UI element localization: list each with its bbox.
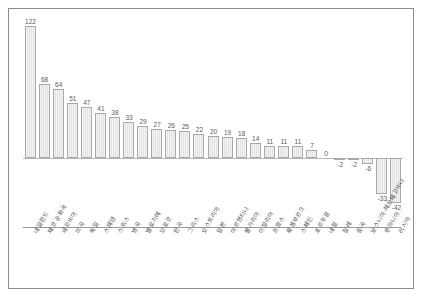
bar[interactable] [222,137,233,158]
bar-item[interactable]: 11 [292,17,303,212]
bar-item[interactable]: -2 [334,17,345,212]
category-label: 러시아 [398,215,413,234]
bar-item[interactable]: 18 [236,17,247,212]
bar-item[interactable]: 27 [151,17,162,212]
bar[interactable] [39,84,50,158]
bar-item[interactable]: 0 [320,17,331,212]
bar-item[interactable]: 26 [165,17,176,212]
bar-item[interactable]: 25 [179,17,190,212]
category-label: 프랑스 [272,215,287,234]
bar[interactable] [376,158,387,194]
bar-item[interactable]: -2 [348,17,359,212]
bar[interactable] [264,146,275,158]
bar-item[interactable]: 22 [193,17,204,212]
bar-item[interactable]: -6 [362,17,373,212]
bar-item[interactable]: 68 [39,17,50,212]
bar-item[interactable]: 51 [67,17,78,212]
bar[interactable] [123,122,134,158]
bar[interactable] [165,130,176,158]
bar-item[interactable]: 20 [208,17,219,212]
bar-item[interactable]: -33 [376,17,387,212]
bar-item[interactable]: 11 [264,17,275,212]
bar-item[interactable]: 29 [137,17,148,212]
bar[interactable] [250,143,261,158]
bar[interactable] [193,134,204,158]
category-label: 모로코 [159,215,174,234]
bar[interactable] [109,117,120,158]
bar[interactable] [348,158,359,160]
category-label: 미국 [75,221,87,235]
bar[interactable] [137,126,148,157]
bar[interactable] [179,131,190,158]
category-label: 스페인 [300,215,315,234]
bar[interactable] [334,158,345,160]
bar-item[interactable]: 47 [81,17,92,212]
bar-item[interactable]: 19 [222,17,233,212]
bar-item[interactable]: 11 [278,17,289,212]
bar[interactable] [362,158,373,165]
category-label: 그리스 [187,215,202,234]
bar[interactable] [67,103,78,158]
bar-item[interactable]: 64 [53,17,64,212]
bar[interactable] [278,146,289,158]
bar-item[interactable]: 7 [306,17,317,212]
bar-item[interactable]: 122 [25,17,36,212]
category-label: 스위스 [117,215,132,234]
plot-area: 1226864514741383329272625222019181411111… [23,17,403,212]
bar-item[interactable]: 14 [250,17,261,212]
bar[interactable] [208,136,219,158]
bar[interactable] [95,113,106,157]
bar-item[interactable]: 33 [123,17,134,212]
bar[interactable] [25,26,36,158]
category-label: 스웨덴 [103,215,118,234]
bar[interactable] [151,129,162,158]
chart-frame: 1226864514741383329272625222019181411111… [8,8,414,289]
bar[interactable] [81,107,92,158]
category-label: 일본 [216,221,228,235]
